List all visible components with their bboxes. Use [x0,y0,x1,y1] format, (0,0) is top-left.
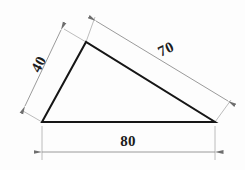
technical-drawing-canvas: 80 40 70 [0,0,245,170]
dimension-label-base: 80 [113,134,143,149]
